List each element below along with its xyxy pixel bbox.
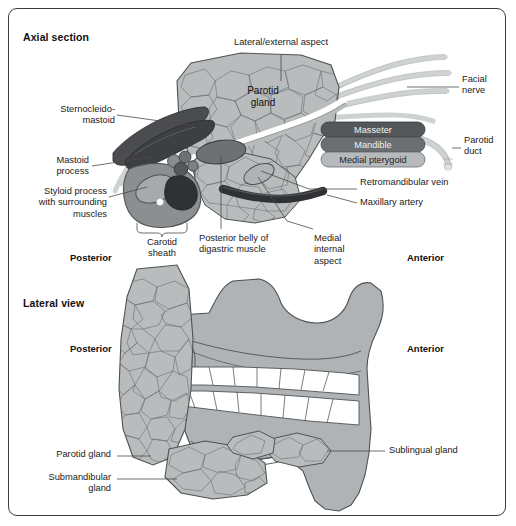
axial-anterior-label: Anterior [407, 252, 444, 263]
parotid-gland-inline-label: Parotid gland [225, 85, 301, 109]
lateral-view-panel: Lateral view [9, 279, 505, 517]
label-styloid-process: Styloid process with surrounding muscles [11, 186, 107, 220]
figure-frame: Axial section [8, 8, 506, 516]
styloid-process-complex [123, 163, 200, 227]
label-facial-nerve: Facial nerve [462, 74, 487, 97]
label-sternocleidomastoid: Sternocleido- mastoid [17, 104, 115, 127]
label-mastoid-process: Mastoid process [17, 155, 89, 178]
lateral-anterior-label: Anterior [407, 343, 444, 354]
axial-posterior-label: Posterior [70, 252, 112, 263]
mandible-box-label: Mandible [321, 140, 425, 150]
masseter-box-label: Masseter [321, 125, 425, 135]
lateral-posterior-label: Posterior [70, 343, 112, 354]
label-posterior-belly-digastric: Posterior belly of digastric muscle [199, 233, 268, 256]
label-lateral-external-aspect: Lateral/external aspect [211, 37, 351, 48]
label-medial-internal-aspect: Medial internal aspect [314, 233, 345, 267]
label-carotid-sheath: Carotid sheath [132, 237, 192, 260]
label-maxillary-artery: Maxillary artery [360, 197, 423, 208]
label-parotid-duct: Parotid duct [464, 135, 493, 158]
label-submandibular-gland: Submandibular gland [13, 472, 111, 495]
label-retromandibular-vein: Retromandibular vein [360, 177, 448, 188]
medial-pterygoid-box-label: Medial pterygoid [321, 155, 425, 165]
lateral-parotid-gland [115, 265, 193, 465]
label-sublingual-gland: Sublingual gland [389, 445, 458, 456]
label-parotid-gland: Parotid gland [19, 449, 111, 460]
